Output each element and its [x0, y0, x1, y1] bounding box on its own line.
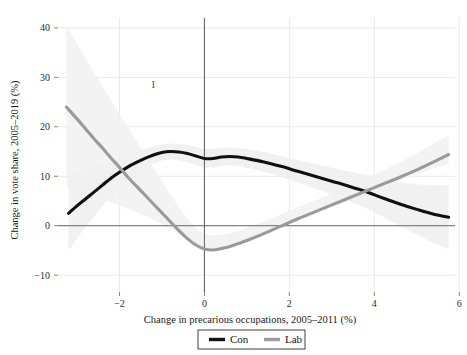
x-axis-ticks: −20246: [114, 292, 462, 309]
y-tick-label: 10: [40, 171, 50, 182]
x-tick-label: 2: [287, 298, 292, 309]
y-axis-title: Change in vote share, 2005–2019 (%): [9, 80, 21, 240]
y-tick-label: 20: [40, 121, 50, 132]
chart-figure: −20246 −10010203040 I Change in precario…: [0, 0, 467, 355]
y-tick-label: −10: [34, 270, 50, 281]
confidence-bands: [66, 25, 448, 250]
chart-legend: ConLab: [198, 330, 305, 349]
x-tick-label: 4: [372, 298, 377, 309]
y-tick-label: 30: [40, 72, 50, 83]
legend-label-con: Con: [230, 333, 249, 345]
x-tick-label: 0: [202, 298, 207, 309]
y-axis-ticks: −10010203040: [34, 22, 58, 280]
tick-mark-annotation: I: [152, 78, 156, 90]
x-axis-title: Change in precarious occupations, 2005–2…: [144, 314, 357, 326]
y-tick-label: 40: [40, 22, 50, 33]
y-tick-label: 0: [45, 220, 50, 231]
x-tick-label: −2: [114, 298, 125, 309]
x-tick-label: 6: [457, 298, 462, 309]
chart-annotations: I: [152, 78, 156, 90]
chart-plot-area: −20246 −10010203040 I Change in precario…: [0, 0, 467, 355]
legend-label-lab: Lab: [285, 333, 303, 345]
